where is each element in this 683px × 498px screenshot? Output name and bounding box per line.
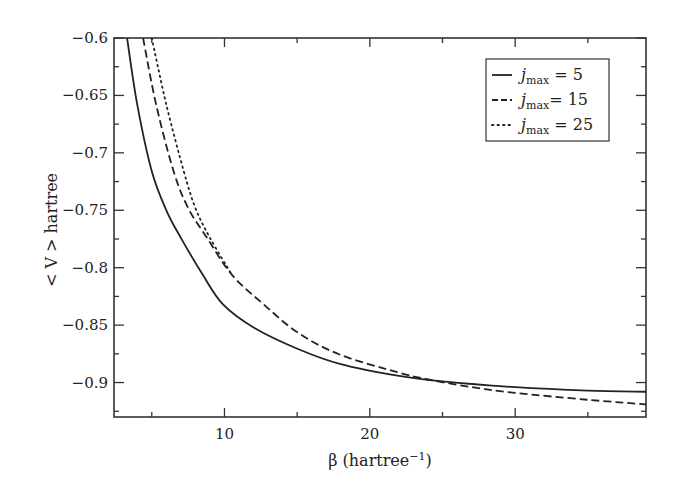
chart: −0.6−0.65−0.7−0.75−0.8−0.85−0.9 102030 β… [0, 0, 683, 498]
x-tick-labels: 102030 [215, 425, 525, 443]
x-tick-label: 10 [215, 425, 234, 443]
y-tick-label: −0.85 [62, 316, 108, 334]
y-tick-label: −0.6 [72, 29, 108, 47]
y-tick-labels: −0.6−0.65−0.7−0.75−0.8−0.85−0.9 [62, 29, 108, 392]
series-line-dotted [152, 38, 232, 275]
y-tick-label: −0.8 [72, 259, 108, 277]
y-tick-label: −0.65 [62, 86, 108, 104]
x-tick-label: 20 [360, 425, 379, 443]
x-tick-label: 30 [506, 425, 525, 443]
legend: jmax = 5jmax= 15jmax = 25 [486, 59, 609, 141]
y-tick-label: −0.75 [62, 201, 108, 219]
y-tick-label: −0.9 [72, 374, 108, 392]
y-tick-label: −0.7 [72, 144, 108, 162]
x-axis-label: β (hartree−1) [328, 450, 432, 470]
y-axis-label: < V > hartree [42, 173, 61, 287]
